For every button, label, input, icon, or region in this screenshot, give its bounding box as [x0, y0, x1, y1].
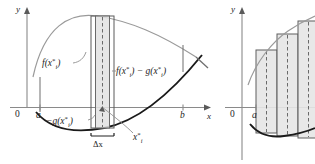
figure-root: y x 0 a b f(x*i) f(x*i) − g(x*i) −g(x*i)…	[0, 0, 315, 164]
delta-x-bracket	[91, 133, 114, 136]
delta-x-label: Δx	[93, 139, 104, 149]
minus-g-label-main: −g(x	[46, 116, 65, 127]
y-axis-label-left: y	[15, 4, 20, 14]
tick-label-a-right: a	[252, 110, 257, 120]
height-label-c: )	[162, 66, 166, 77]
minus-g-label: −g(x*i)	[46, 115, 73, 128]
y-axis-right	[239, 7, 245, 160]
x-axis-label-left: x	[206, 111, 211, 121]
leader-f-label	[73, 52, 86, 63]
y-axis-left	[24, 7, 30, 108]
left-panel: y x 0 a b f(x*i) f(x*i) − g(x*i) −g(x*i)…	[0, 0, 220, 164]
height-label-b: ) − g(x	[130, 66, 158, 77]
curve-crossing-decoration	[196, 57, 208, 68]
height-label: f(x*i) − g(x*i)	[116, 65, 166, 78]
riemann-rectangle-3	[298, 21, 315, 138]
tick-label-a-left: a	[36, 110, 41, 120]
tick-label-b-left: b	[180, 110, 185, 120]
sample-point-label-sub: i	[141, 137, 143, 144]
origin-label-left: 0	[15, 109, 20, 119]
f-value-label-close: )	[56, 58, 60, 69]
f-value-label: f(x*i)	[42, 57, 60, 70]
origin-label-right: 0	[230, 109, 235, 119]
sample-point-label: x*i	[132, 131, 143, 144]
y-axis-label-right: y	[230, 4, 235, 14]
right-panel: y 0 a	[220, 0, 315, 164]
minus-g-label-close: )	[69, 116, 73, 127]
